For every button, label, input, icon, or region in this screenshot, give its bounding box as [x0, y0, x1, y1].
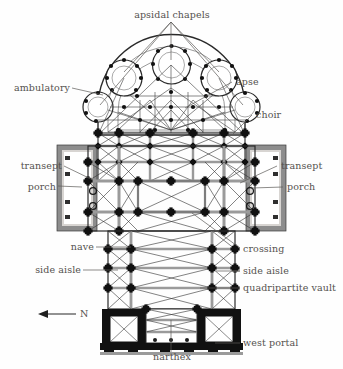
label-transept-right: transept [281, 160, 322, 171]
label-north: N [80, 308, 88, 319]
crossing-block [83, 146, 259, 236]
label-side-aisle-right: side aisle [243, 265, 289, 276]
label-quadripartite-vault: quadripartite vault [243, 282, 336, 293]
label-choir: choir [256, 109, 281, 120]
label-apse: apse [236, 76, 259, 87]
label-porch-right: porch [287, 181, 315, 192]
choir-bays [93, 128, 249, 181]
label-ambulatory: ambulatory [0, 82, 70, 93]
label-side-aisle-left: side aisle [0, 264, 81, 275]
west-front [100, 304, 243, 355]
label-nave: nave [0, 241, 94, 252]
compass-north [38, 310, 76, 318]
nave-body [103, 231, 239, 309]
cathedral-plan-figure: apsidal chapels ambulatory apse choir tr… [0, 0, 343, 369]
label-west-portal: west portal [243, 337, 298, 348]
label-apsidal-chapels: apsidal chapels [107, 9, 237, 20]
label-crossing: crossing [243, 243, 284, 254]
label-transept-left: transept [0, 160, 62, 171]
label-porch-left: porch [0, 181, 56, 192]
label-narthex: narthex [136, 351, 208, 362]
